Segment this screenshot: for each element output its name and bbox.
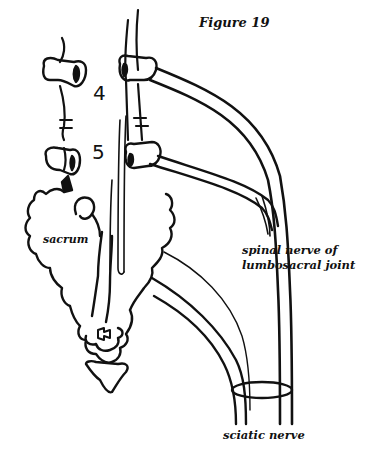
lumbosacral-joint-nerve [256, 196, 270, 236]
anatomical-figure: Figure 19 4 5 sacrum spinal nerve of lum… [0, 0, 368, 464]
lumbosacral-illustration [0, 0, 368, 464]
spinal-nerve-label-line2: lumbosacral joint [242, 258, 355, 273]
sciatic-nerve-sheath [232, 382, 292, 398]
vertebra-l4-number: 4 [93, 83, 106, 103]
right-spinal-channel [125, 10, 148, 140]
vertebra-l5-number: 5 [92, 142, 105, 162]
l5-right-process [125, 142, 160, 168]
figure-title: Figure 19 [199, 16, 269, 29]
sciatic-nerve-label: sciatic nerve [223, 430, 305, 442]
sacral-plexus-nerves [152, 252, 250, 424]
coccyx-bone [86, 328, 128, 392]
spinal-nerve-label-line1: spinal nerve of [242, 243, 355, 258]
spinal-nerve-label: spinal nerve of lumbosacral joint [242, 243, 355, 273]
sacrum-bone [26, 189, 175, 363]
sacrum-label: sacrum [43, 234, 88, 245]
l4-left-process [43, 58, 86, 86]
l5-left-process [46, 147, 80, 192]
l5-nerve [150, 156, 278, 230]
